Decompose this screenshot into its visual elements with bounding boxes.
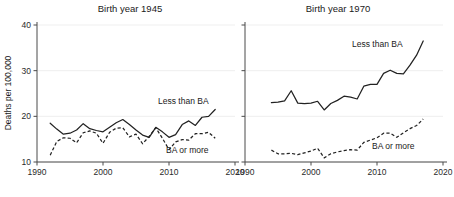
figure-panels-chart: Birth year 1945102030401990200020102020L…	[0, 0, 454, 197]
x-tick-label-2020-panel-2: 2020	[434, 167, 453, 177]
series-line-less-than-ba-panel-2	[271, 41, 423, 110]
series-label-ba-or-more-panel-2: BA or more	[372, 141, 415, 151]
y-tick-label-10: 10	[22, 157, 32, 167]
chart-canvas: Birth year 1945102030401990200020102020L…	[0, 0, 454, 197]
panel-title-2: Birth year 1970	[306, 3, 370, 14]
series-line-ba-or-more-panel-2	[271, 119, 423, 158]
y-tick-label-40: 40	[22, 20, 32, 30]
x-tick-label-2010-panel-1: 2010	[160, 167, 179, 177]
series-label-less-than-ba-panel-2: Less than BA	[352, 39, 403, 49]
series-label-less-than-ba-panel-1: Less than BA	[158, 96, 209, 106]
panel-title-1: Birth year 1945	[98, 3, 162, 14]
series-line-less-than-ba-panel-1	[50, 109, 215, 137]
y-tick-label-30: 30	[22, 66, 32, 76]
x-tick-label-2000-panel-1: 2000	[94, 167, 113, 177]
x-tick-label-2010-panel-2: 2010	[368, 167, 387, 177]
y-tick-label-20: 20	[22, 111, 32, 121]
series-label-ba-or-more-panel-1: BA or more	[166, 145, 209, 155]
x-tick-label-1990-panel-1: 1990	[28, 167, 47, 177]
x-tick-label-1990-panel-2: 1990	[236, 167, 255, 177]
y-axis-title: Deaths per 100,000	[3, 55, 13, 130]
x-tick-label-2000-panel-2: 2000	[302, 167, 321, 177]
